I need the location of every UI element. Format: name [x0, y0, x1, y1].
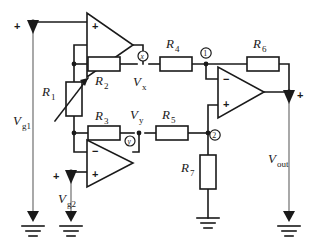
source-vout-label-sub: out: [277, 159, 289, 169]
node-x: x V x: [133, 51, 148, 92]
opamp-output-minus-sign: −: [223, 73, 229, 85]
opamp-output-plus-sign: +: [223, 98, 229, 110]
resistor-r6-label: R: [252, 36, 261, 51]
resistor-r4-label-sub: 4: [175, 44, 180, 54]
opamp-bottom-plus-sign: +: [92, 168, 98, 180]
resistor-r1-label: R: [41, 84, 50, 99]
resistor-r5-body: [156, 126, 188, 140]
ground-vg1: [22, 211, 44, 236]
junction-r3-left: [72, 131, 77, 136]
resistor-r1: R 1: [41, 78, 88, 121]
resistor-r6-body: [247, 57, 279, 71]
source-vg2-label-sub: g2: [67, 199, 76, 209]
resistor-r7-label-sub: 7: [190, 168, 195, 178]
ground-vg2-arrow: [65, 211, 77, 222]
resistor-r3-body: [88, 126, 120, 140]
resistor-r1-label-sub: 1: [51, 92, 56, 102]
wire-node2-to-opamp-out-plus: [208, 105, 218, 133]
junction-r2-left: [72, 62, 77, 67]
opamp-top-plus-sign: +: [92, 20, 98, 32]
resistor-r4-body: [160, 57, 192, 71]
node-2: 2: [210, 130, 220, 140]
opamp-output: − +: [218, 67, 264, 118]
source-vg2-polarity: +: [53, 170, 59, 182]
junction-node-y: [137, 131, 142, 136]
resistor-r2-body: [88, 57, 120, 71]
resistor-r1-body: [66, 82, 82, 116]
resistor-r7-body: [200, 155, 216, 189]
source-vg2-arrow: [65, 170, 77, 184]
resistor-r2: R 2: [88, 57, 120, 91]
resistor-r3-label-sub: 3: [104, 116, 109, 126]
source-vg2: + V g2: [53, 170, 77, 209]
opamp-bottom-minus-sign: −: [92, 145, 98, 157]
ground-vout: [278, 211, 300, 236]
source-vg1-arrow: [27, 20, 39, 34]
source-vg1-polarity: +: [14, 20, 20, 32]
opamp-bottom: − +: [87, 140, 133, 187]
resistor-r7-label: R: [180, 160, 189, 175]
ground-vout-arrow: [283, 211, 295, 222]
node-1-marker: 1: [203, 49, 207, 58]
resistor-r3-label: R: [94, 108, 103, 123]
junction-node1: [204, 62, 209, 67]
ground-vg1-arrow: [27, 211, 39, 222]
node-2-marker: 2: [212, 131, 216, 140]
source-vg1-label-sub: g1: [22, 121, 31, 131]
source-vg1: + V g1: [13, 20, 39, 131]
node-y-marker: y: [127, 137, 132, 146]
resistor-r5: R 5: [156, 107, 188, 140]
resistor-r7: R 7: [180, 155, 216, 189]
node-y: y V y: [125, 107, 144, 146]
source-vout-polarity: +: [297, 89, 303, 101]
wire-opamp-top-feedback: [74, 45, 87, 64]
resistor-r6-label-sub: 6: [262, 44, 267, 54]
circuit-canvas: + − − + − + R 1 R 2 R 3 R 4 R: [0, 0, 313, 249]
wire-network: [33, 22, 289, 218]
resistor-r4: R 4: [160, 36, 192, 71]
resistor-r3: R 3: [88, 108, 120, 140]
resistor-r4-label: R: [165, 36, 174, 51]
wire-opamp-bottom-feedback: [74, 133, 87, 152]
circuit-diagram: + − − + − + R 1 R 2 R 3 R 4 R: [0, 0, 313, 249]
node-1: 1: [201, 48, 211, 58]
resistor-r2-label-sub: 2: [104, 81, 109, 91]
wire-node1-to-opamp-out-minus: [206, 64, 218, 79]
resistor-r6: R 6: [247, 36, 279, 71]
node-x-marker: x: [140, 52, 145, 61]
resistor-r5-label-sub: 5: [171, 115, 176, 125]
node-x-label-sub: x: [142, 82, 147, 92]
ground-r7: [197, 218, 219, 228]
node-y-label-sub: y: [139, 115, 144, 125]
source-vout-arrow: [283, 90, 295, 104]
source-vout: + V out: [268, 89, 303, 169]
resistor-r2-label: R: [94, 73, 103, 88]
ground-vg2: [60, 211, 82, 236]
resistor-r5-label: R: [161, 107, 170, 122]
